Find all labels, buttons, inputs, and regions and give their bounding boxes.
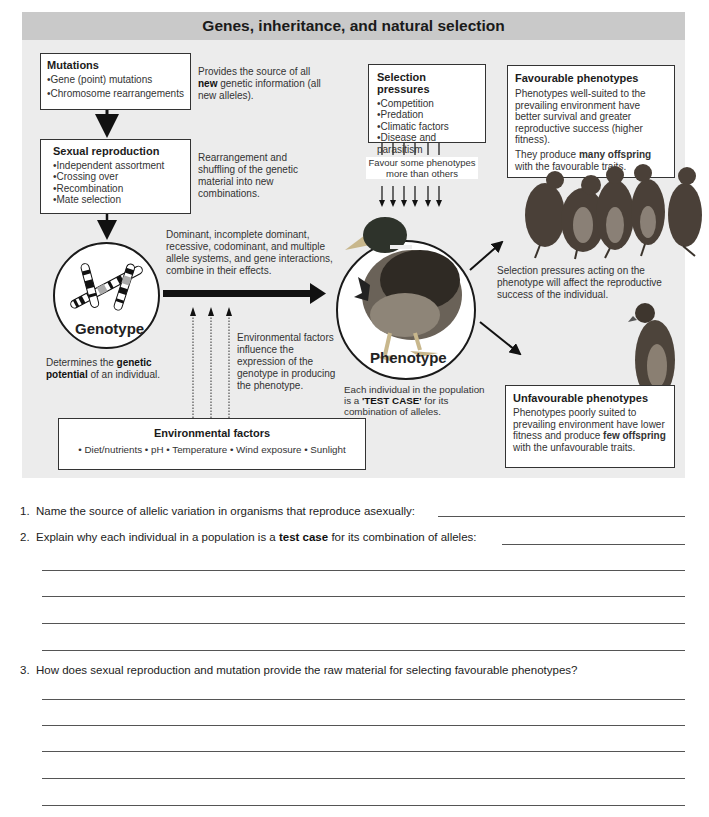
- environment-influence-note: Environmental factors influence the expr…: [237, 332, 342, 392]
- interaction-note: Dominant, incomplete dominant, recessive…: [166, 229, 341, 277]
- mutations-item: Chromosome rearrangements: [47, 88, 184, 99]
- answer-line-1[interactable]: [438, 516, 685, 517]
- reproduction-item: Mate selection: [53, 194, 178, 205]
- unfavourable-phenotypes-box: Unfavourable phenotypes Phenotypes poorl…: [505, 385, 675, 468]
- answer-line-3[interactable]: [42, 725, 685, 726]
- answer-line-2[interactable]: [502, 544, 685, 545]
- chromosome-icon: [62, 258, 152, 318]
- favourable-heading: Favourable phenotypes: [515, 72, 667, 84]
- environmental-factors-heading: Environmental factors: [63, 427, 361, 439]
- unfavourable-text: Phenotypes poorly suited to prevailing e…: [513, 407, 667, 453]
- question-3: 3. How does sexual reproduction and muta…: [20, 664, 577, 676]
- selection-pressures-box: Selection pressures Competition Predatio…: [368, 64, 486, 143]
- favour-note: Favour some phenotypes more than others: [366, 157, 478, 179]
- genotype-label: Genotype: [75, 320, 144, 337]
- arrow-genotype-to-phenotype: [310, 283, 326, 304]
- answer-line-3[interactable]: [42, 805, 685, 806]
- mutations-note: Provides the source of all new genetic i…: [198, 66, 323, 102]
- reproduction-note: Rearrangement and shuffling of the genet…: [198, 152, 298, 200]
- answer-line-3[interactable]: [42, 778, 685, 779]
- reproduction-item: Crossing over: [53, 171, 178, 182]
- answer-line-2[interactable]: [42, 570, 685, 571]
- environmental-factors-box: Environmental factors • Diet/nutrients •…: [58, 418, 366, 470]
- selection-pressures-heading: Selection pressures: [377, 71, 477, 95]
- mutations-box: Mutations Gene (point) mutations Chromos…: [40, 53, 191, 110]
- phenotype-note: Each individual in the population is a '…: [344, 384, 494, 417]
- phenotype-label: Phenotype: [370, 349, 447, 366]
- ducklings-favourable-image: [505, 160, 709, 260]
- pressure-item: Predation: [377, 109, 477, 120]
- sexual-reproduction-heading: Sexual reproduction: [53, 145, 178, 157]
- mutations-heading: Mutations: [47, 59, 184, 71]
- favourable-text: Phenotypes well-suited to the prevailing…: [515, 88, 667, 146]
- answer-line-2[interactable]: [42, 596, 685, 597]
- pressure-item: Disease and parasitism: [377, 132, 477, 155]
- unfavourable-heading: Unfavourable phenotypes: [513, 392, 667, 404]
- sexual-reproduction-box: Sexual reproduction Independent assortme…: [40, 139, 191, 214]
- pressure-item: Climatic factors: [377, 121, 477, 132]
- answer-line-2[interactable]: [42, 623, 685, 624]
- question-2: 2. Explain why each individual in a popu…: [20, 531, 476, 543]
- selection-note: Selection pressures acting on the phenot…: [497, 265, 682, 301]
- reproduction-item: Recombination: [53, 183, 178, 194]
- answer-line-3[interactable]: [42, 751, 685, 752]
- mutations-item: Gene (point) mutations: [47, 74, 184, 85]
- environmental-factors-list: • Diet/nutrients • pH • Temperature • Wi…: [63, 444, 361, 455]
- pressure-item: Competition: [377, 98, 477, 109]
- answer-line-2[interactable]: [42, 650, 685, 651]
- arrow-to-unfavourable: [480, 322, 520, 354]
- duck-image: [340, 205, 475, 365]
- answer-line-3[interactable]: [42, 699, 685, 700]
- genotype-note: Determines the genetic potential of an i…: [46, 357, 176, 381]
- reproduction-item: Independent assortment: [53, 160, 178, 171]
- question-1: 1. Name the source of allelic variation …: [20, 505, 415, 517]
